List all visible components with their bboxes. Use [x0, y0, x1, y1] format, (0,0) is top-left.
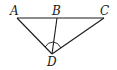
point-label-a: A — [9, 4, 19, 18]
segment-bd — [52, 18, 57, 54]
angle-arc-adb — [45, 42, 53, 47]
geometry-diagram: A B C D — [0, 0, 117, 70]
point-label-d: D — [46, 55, 57, 69]
angle-arc-bdc — [53, 42, 61, 48]
segment-cd — [52, 18, 104, 54]
segment-ad — [17, 18, 52, 54]
point-label-b: B — [51, 4, 61, 18]
point-label-c: C — [100, 4, 109, 18]
